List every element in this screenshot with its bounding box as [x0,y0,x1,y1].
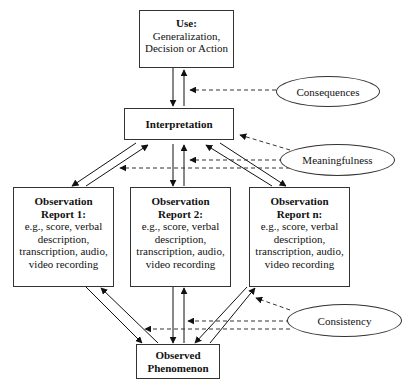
report2-line3: transcription, audio, [131,245,230,258]
reportn-box: Observation Report n: e.g., score, verba… [249,187,350,287]
meaningfulness-ellipse: Meaningfulness [280,144,395,176]
report2-line2: description, [131,233,230,246]
report1-box: Observation Report 1: e.g., score, verba… [13,187,114,287]
use-title: Use: [140,17,233,30]
phenomenon-title2: Phenomenon [137,362,219,375]
reportn-title1: Observation [250,195,349,208]
report1-line1: e.g., score, verbal [14,220,113,233]
reportn-title2: Report n: [250,208,349,221]
consequences-label: Consequences [297,86,360,98]
phenomenon-box: Observed Phenomenon [136,344,220,379]
meaningfulness-label: Meaningfulness [302,154,372,166]
report1-line3: transcription, audio, [14,245,113,258]
interpretation-box: Interpretation [124,108,234,140]
reportn-line1: e.g., score, verbal [250,220,349,233]
reportn-line2: description, [250,233,349,246]
report2-title2: Report 2: [131,208,230,221]
report2-line1: e.g., score, verbal [131,220,230,233]
report1-title2: Report 1: [14,208,113,221]
reportn-line4: video recording [250,258,349,271]
use-line1: Generalization, [140,30,233,43]
report2-line4: video recording [131,258,230,271]
consistency-ellipse: Consistency [287,304,402,337]
use-line2: Decision or Action [140,42,233,55]
phenomenon-title1: Observed [137,349,219,362]
consequences-ellipse: Consequences [276,76,380,107]
use-box: Use: Generalization, Decision or Action [139,10,234,68]
report1-line4: video recording [14,258,113,271]
report2-title1: Observation [131,195,230,208]
report2-box: Observation Report 2: e.g., score, verba… [130,187,231,287]
consistency-label: Consistency [318,315,372,327]
report1-line2: description, [14,233,113,246]
interpretation-title: Interpretation [125,118,233,131]
reportn-line3: transcription, audio, [250,245,349,258]
report1-title1: Observation [14,195,113,208]
